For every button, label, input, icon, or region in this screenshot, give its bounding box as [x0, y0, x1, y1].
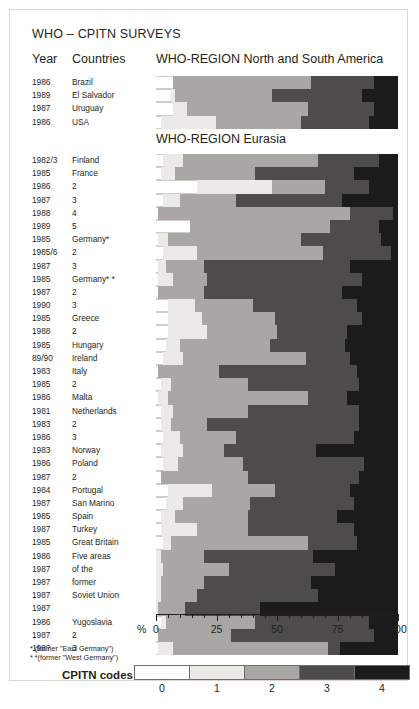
bar-segment-code-0 [156, 325, 168, 338]
bar-segment-code-3 [224, 444, 316, 457]
bar-segment-code-1 [158, 642, 173, 655]
bar-segment-code-0 [156, 102, 173, 115]
list-item: 1987former [32, 576, 152, 589]
axis-tick-major [217, 614, 218, 621]
bar-segment-code-4 [359, 405, 398, 418]
row-labels-eurasia: 1982/3Finland1985France19862198731988419… [32, 154, 152, 655]
bar-segment-code-3 [311, 76, 374, 89]
row-year: 1987 [32, 194, 50, 207]
axis-tick-minor [229, 614, 230, 618]
row-country: former [72, 576, 96, 589]
legend-label: 2 [244, 682, 300, 694]
bar-segment-code-2 [178, 457, 243, 470]
bar-segment-code-2 [187, 102, 308, 115]
table-row [156, 233, 398, 246]
bar-segment-code-3 [248, 471, 359, 484]
table-row [156, 180, 398, 193]
bar-segment-code-4 [362, 312, 398, 325]
row-year: 1985 [32, 510, 50, 523]
axis-tick-major [398, 614, 399, 621]
bar-segment-code-0 [156, 154, 163, 167]
row-country: 3 [72, 260, 77, 273]
legend-swatch-2 [244, 665, 300, 680]
list-item: 1985Germany* * [32, 273, 152, 286]
bar-segment-code-3 [236, 431, 355, 444]
bar-segment-code-3 [248, 510, 338, 523]
table-row [156, 246, 398, 259]
table-row [156, 550, 398, 563]
axis-tick-minor [265, 614, 266, 618]
bar-segment-code-2 [212, 484, 275, 497]
bar-segment-code-3 [248, 523, 354, 536]
row-year: 1983 [32, 418, 50, 431]
row-year: 1986 [32, 180, 50, 193]
table-row [156, 497, 398, 510]
row-country: Brazil [72, 76, 93, 89]
bar-segment-code-4 [381, 233, 398, 246]
row-year: 1987 [32, 102, 50, 115]
legend-item-code-1: 1 [189, 665, 245, 694]
bar-segment-code-1 [161, 418, 171, 431]
bar-segment-code-1 [168, 325, 207, 338]
row-year: 1985 [32, 536, 50, 549]
row-year: 1985 [32, 312, 50, 325]
bar-segment-code-3 [330, 220, 378, 233]
table-row [156, 431, 398, 444]
list-item: 1985Greece [32, 312, 152, 325]
row-country: 2 [72, 471, 77, 484]
row-year: 1987 [32, 523, 50, 536]
list-item: 1986Brazil [32, 76, 152, 89]
bar-segment-code-2 [171, 378, 248, 391]
bar-segment-code-1 [166, 339, 181, 352]
bar-segment-code-4 [393, 207, 398, 220]
row-year: 1985 [32, 233, 50, 246]
bar-segment-code-4 [335, 563, 398, 576]
axis-tick-minor [362, 614, 363, 618]
bar-segment-code-3 [328, 642, 340, 655]
row-country: 2 [72, 378, 77, 391]
legend-item-code-4: 4 [354, 665, 410, 694]
table-row [156, 102, 398, 115]
row-country: Uruguay [72, 102, 103, 115]
column-header-countries: Countries [72, 52, 126, 66]
bar-segment-code-0 [156, 76, 173, 89]
table-row [156, 286, 398, 299]
bar-segment-code-1 [161, 523, 197, 536]
bar-segment-code-2 [168, 233, 301, 246]
bar-segment-code-4 [342, 194, 398, 207]
bar-segment-code-3 [204, 260, 349, 273]
list-item: 1985Hungary [32, 339, 152, 352]
row-year: 1987 [32, 629, 50, 642]
axis-tick-minor [180, 614, 181, 618]
bar-segment-code-4 [337, 510, 398, 523]
bar-segment-code-1 [173, 102, 188, 115]
row-country: Five areas [72, 550, 111, 563]
bar-segment-code-4 [350, 352, 398, 365]
bar-segment-code-2 [173, 642, 328, 655]
list-item: 1986USA [32, 116, 152, 129]
row-country: Netherlands [72, 405, 117, 418]
bar-segment-code-4 [379, 220, 398, 233]
table-row [156, 325, 398, 338]
bar-segment-code-3 [323, 246, 391, 259]
bar-segment-code-4 [359, 378, 398, 391]
row-year: 1990 [32, 299, 50, 312]
row-country: 3 [72, 194, 77, 207]
row-year: 1985 [32, 339, 50, 352]
row-country: 3 [72, 431, 77, 444]
bar-segment-code-3 [270, 339, 345, 352]
table-row [156, 273, 398, 286]
bar-segment-code-4 [318, 589, 398, 602]
list-item: 1986Poland [32, 457, 152, 470]
row-year: 1983 [32, 444, 50, 457]
list-item: 19872 [32, 471, 152, 484]
row-country: USA [72, 116, 89, 129]
list-item: 1987Turkey [32, 523, 152, 536]
bar-segment-code-1 [161, 116, 217, 129]
list-item: 1987of the [32, 563, 152, 576]
bar-segment-code-0 [156, 352, 163, 365]
list-item: 1987 [32, 602, 152, 615]
list-item: 19884 [32, 207, 152, 220]
table-row [156, 523, 398, 536]
row-labels-america: 1986Brazil1989El Salvador1987Uruguay1986… [32, 76, 152, 129]
